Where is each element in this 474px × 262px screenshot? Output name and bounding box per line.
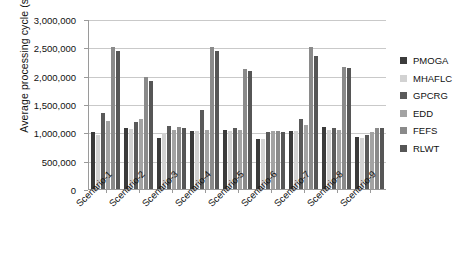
- y-axis-tick-label: 3,000,000: [34, 15, 76, 26]
- legend-swatch-icon: [400, 127, 407, 134]
- bar[interactable]: [116, 51, 120, 189]
- legend-swatch-icon: [400, 92, 407, 99]
- legend-swatch-icon: [400, 57, 407, 64]
- bar-group: [221, 20, 254, 189]
- bar[interactable]: [210, 47, 214, 189]
- bar[interactable]: [309, 47, 313, 189]
- y-axis-tick-labels: 0500,0001,000,0001,500,0002,000,0002,500…: [0, 0, 84, 212]
- chart-container: Average processing cycle (s) 0500,0001,0…: [0, 0, 474, 262]
- legend-swatch-icon: [400, 75, 407, 82]
- bar-groups: [89, 20, 386, 189]
- legend-item[interactable]: PMOGA: [400, 52, 474, 70]
- legend-swatch-icon: [400, 110, 407, 117]
- y-axis-tick-label: 1,500,000: [34, 100, 76, 111]
- bar[interactable]: [182, 128, 186, 189]
- y-axis-tick-label: 500,000: [42, 156, 76, 167]
- legend-label: GPCRG: [413, 90, 448, 101]
- bar[interactable]: [347, 68, 351, 189]
- legend-item[interactable]: FEFS: [400, 122, 474, 140]
- legend-label: FEFS: [413, 125, 437, 136]
- legend-label: PMOGA: [413, 55, 448, 66]
- bar-group: [89, 20, 122, 189]
- legend-item[interactable]: GPCRG: [400, 87, 474, 105]
- bar[interactable]: [281, 132, 285, 189]
- x-axis-tick-labels: Scenario-1Scenario-2Scenario-3Scenario-4…: [88, 192, 386, 262]
- bar-group: [122, 20, 155, 189]
- bar-group: [155, 20, 188, 189]
- plot-area: [88, 20, 386, 190]
- chart-legend: PMOGAMHAFLCGPCRGEDDFEFSRLWT: [400, 52, 474, 157]
- y-axis-tick-label: 0: [71, 185, 76, 196]
- bar[interactable]: [342, 67, 346, 189]
- bar[interactable]: [215, 51, 219, 189]
- bar[interactable]: [243, 69, 247, 189]
- bar[interactable]: [149, 81, 153, 189]
- legend-item[interactable]: EDD: [400, 105, 474, 123]
- y-axis-tick-label: 1,000,000: [34, 128, 76, 139]
- y-axis-tick-label: 2,500,000: [34, 43, 76, 54]
- bar[interactable]: [276, 131, 280, 189]
- bar[interactable]: [111, 47, 115, 189]
- y-axis-tick-label: 2,000,000: [34, 71, 76, 82]
- bar[interactable]: [314, 56, 318, 189]
- bar-group: [254, 20, 287, 189]
- legend-item[interactable]: RLWT: [400, 140, 474, 158]
- bar[interactable]: [380, 128, 384, 189]
- bar-group: [353, 20, 386, 189]
- bar-group: [320, 20, 353, 189]
- bar[interactable]: [177, 127, 181, 189]
- bar-group: [287, 20, 320, 189]
- bar[interactable]: [144, 77, 148, 189]
- legend-label: EDD: [413, 108, 433, 119]
- x-axis-label-cell: Scenario-9: [353, 192, 386, 262]
- legend-label: MHAFLC: [413, 73, 452, 84]
- legend-item[interactable]: MHAFLC: [400, 70, 474, 88]
- legend-label: RLWT: [413, 143, 439, 154]
- legend-swatch-icon: [400, 145, 407, 152]
- bar[interactable]: [248, 71, 252, 189]
- bar-group: [188, 20, 221, 189]
- bar[interactable]: [375, 128, 379, 189]
